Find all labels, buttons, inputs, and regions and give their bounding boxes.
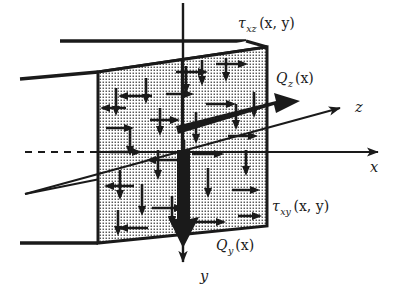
Qz-argument: (x)	[295, 70, 314, 86]
y-axis-label: y	[199, 268, 209, 284]
tau-xz-subscript: xz	[246, 23, 257, 34]
tau-xy-subscript: xy	[280, 206, 291, 217]
z-axis-label: z	[354, 99, 363, 115]
Qz-symbol: Q	[276, 70, 288, 86]
beam-shear-diagram: τxz(x, y) Qz(x) z x τxy(x, y) Qy(x) y	[0, 0, 401, 295]
tau-xz-symbol: τ	[238, 15, 246, 31]
svg-text:Qy(x): Qy(x)	[216, 237, 254, 256]
tau-xy-argument: (x, y)	[293, 198, 329, 214]
label-Qy: Qy(x)	[216, 237, 254, 256]
Qz-subscript: z	[287, 78, 294, 89]
Qy-argument: (x)	[235, 237, 254, 253]
label-Qz: Qz(x)	[276, 70, 314, 89]
Qy-symbol: Q	[216, 237, 228, 253]
figure-root: τxz(x, y) Qz(x) z x τxy(x, y) Qy(x) y	[0, 0, 401, 295]
tau-xz-argument: (x, y)	[259, 15, 295, 31]
svg-text:Qz(x): Qz(x)	[276, 70, 314, 89]
x-axis-label: x	[370, 159, 378, 175]
tau-xy-symbol: τ	[272, 198, 280, 214]
Qy-subscript: y	[227, 245, 234, 256]
